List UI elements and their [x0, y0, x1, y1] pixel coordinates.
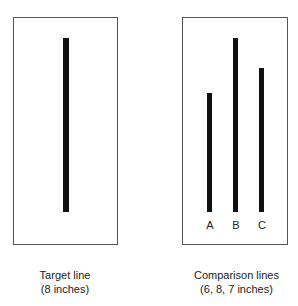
comparison-caption-lengths: (6, 8, 7 inches) — [175, 282, 298, 296]
target-caption-title: Target line — [0, 268, 130, 282]
target-line — [63, 38, 69, 212]
label-b: B — [230, 219, 242, 231]
comparison-caption-title: Comparison lines — [175, 268, 298, 282]
target-caption: Target line (8 inches) — [0, 268, 130, 296]
label-a: A — [204, 219, 216, 231]
label-c: C — [256, 219, 268, 231]
target-caption-length: (8 inches) — [0, 282, 130, 296]
comparison-caption: Comparison lines (6, 8, 7 inches) — [175, 268, 298, 296]
comparison-line-a — [207, 93, 212, 212]
comparison-line-c — [259, 68, 264, 212]
comparison-line-b — [233, 38, 238, 212]
